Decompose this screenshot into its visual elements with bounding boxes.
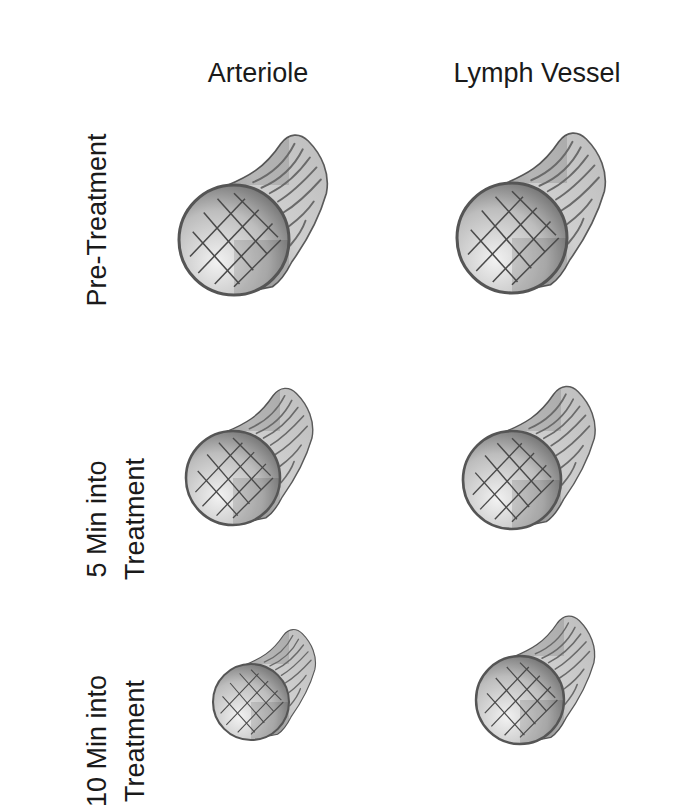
- vessel-lymph-5-min: [463, 387, 595, 529]
- vessel-arteriole-5-min: [186, 388, 313, 525]
- vessel-diagram: [0, 0, 680, 809]
- vessel-lymph-10-min: [476, 616, 595, 744]
- vessel-arteriole-10-min: [213, 630, 315, 740]
- vessel-arteriole-pre-treatment: [179, 135, 327, 295]
- vessel-lymph-pre-treatment: [457, 133, 605, 293]
